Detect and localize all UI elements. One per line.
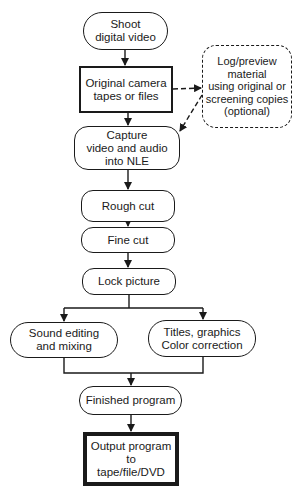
- arrow-original-log: [173, 88, 201, 89]
- node-capture-into-nle: Capture video and audio into NLE: [74, 126, 180, 170]
- arrow-log-capture: [180, 95, 202, 131]
- node-shoot-digital-video: Shoot digital video: [83, 12, 168, 50]
- node-sound-editing-mixing: Sound editing and mixing: [10, 322, 118, 358]
- node-finished-program: Finished program: [79, 386, 182, 415]
- node-original-camera-tapes: Original camera tapes or files: [79, 66, 173, 113]
- node-titles-graphics-color: Titles, graphics Color correction: [148, 320, 256, 357]
- node-lock-picture: Lock picture: [82, 268, 176, 295]
- node-rough-cut: Rough cut: [81, 190, 175, 222]
- node-log-preview-optional: Log/preview material using original or s…: [202, 45, 292, 128]
- node-fine-cut: Fine cut: [81, 227, 175, 253]
- node-output-program: Output program to tape/file/DVD: [83, 432, 179, 486]
- line-merge: [64, 357, 203, 373]
